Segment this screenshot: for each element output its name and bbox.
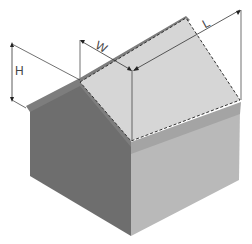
length-label: L	[200, 15, 213, 31]
house-diagram: H W L	[0, 0, 252, 244]
width-label: W	[93, 38, 110, 56]
arrow-right-icon	[236, 10, 241, 15]
height-extension-bottom	[12, 100, 26, 108]
arrow-down-icon	[10, 97, 14, 102]
arrow-left-icon	[80, 40, 85, 44]
height-label: H	[15, 64, 24, 78]
